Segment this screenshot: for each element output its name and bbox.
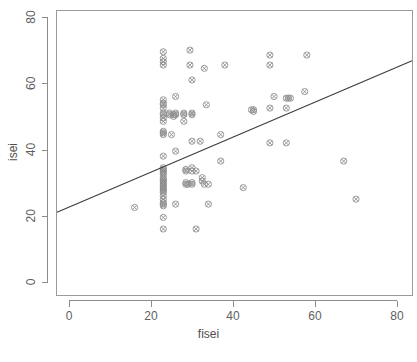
data-point: [160, 226, 166, 232]
x-axis-tick-labels: 020406080: [66, 309, 404, 323]
data-point: [203, 102, 209, 108]
data-point: [341, 158, 347, 164]
y-axis-ticks: [42, 18, 48, 283]
data-point: [160, 49, 166, 55]
data-point: [160, 153, 166, 159]
x-axis-ticks: [70, 301, 398, 307]
data-point: [197, 138, 203, 144]
x-tick-label-80: 80: [390, 309, 404, 323]
data-point: [160, 118, 166, 124]
data-point: [240, 184, 246, 190]
y-tick-label-40: 40: [24, 143, 38, 157]
data-point: [218, 131, 224, 137]
x-axis-title: fisei: [198, 327, 219, 341]
data-point: [189, 77, 195, 83]
x-tick-label-20: 20: [144, 309, 158, 323]
y-tick-label-20: 20: [24, 209, 38, 223]
y-tick-label-0: 0: [24, 278, 38, 285]
data-point: [283, 140, 289, 146]
x-tick-label-0: 0: [66, 309, 73, 323]
data-point-group: [132, 47, 360, 232]
data-point: [189, 138, 195, 144]
data-point: [267, 105, 273, 111]
data-point: [353, 196, 359, 202]
data-point: [205, 201, 211, 207]
chart-canvas: 020406080 020406080 fisei isei: [0, 0, 417, 362]
x-tick-label-60: 60: [308, 309, 322, 323]
y-axis: 020406080: [24, 10, 47, 285]
data-point: [267, 52, 273, 58]
data-point: [222, 62, 228, 68]
data-point: [218, 158, 224, 164]
plot-frame: [57, 11, 413, 296]
data-point: [304, 52, 310, 58]
data-point: [302, 88, 308, 94]
data-point: [193, 168, 199, 174]
x-tick-label-40: 40: [226, 309, 240, 323]
data-point: [267, 62, 273, 68]
data-point: [271, 93, 277, 99]
data-point: [160, 214, 166, 220]
data-point: [267, 140, 273, 146]
data-point: [181, 118, 187, 124]
data-point: [193, 226, 199, 232]
data-point: [187, 47, 193, 53]
y-axis-title: isei: [6, 143, 20, 161]
data-point: [187, 62, 193, 68]
caption-strip: [0, 350, 417, 362]
y-axis-tick-labels: 020406080: [24, 10, 38, 285]
data-point: [173, 201, 179, 207]
y-tick-label-80: 80: [24, 10, 38, 24]
data-point: [205, 181, 211, 187]
scatter-plot-figure: 020406080 020406080 fisei isei: [0, 0, 417, 362]
x-axis: 020406080: [66, 301, 404, 324]
y-tick-label-60: 60: [24, 76, 38, 90]
data-point: [132, 204, 138, 210]
data-point: [283, 105, 289, 111]
data-point: [168, 131, 174, 137]
regression-line: [57, 61, 412, 213]
data-point: [160, 62, 166, 68]
data-point: [201, 65, 207, 71]
data-point: [173, 93, 179, 99]
data-point: [173, 148, 179, 154]
